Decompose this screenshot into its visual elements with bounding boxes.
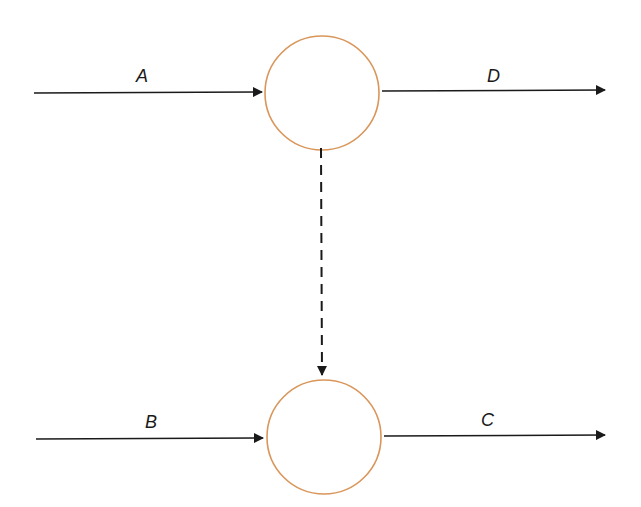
- flow-diagram: A D B C: [0, 0, 641, 507]
- label-d: D: [487, 66, 500, 86]
- label-c: C: [481, 410, 495, 430]
- top-node: [265, 36, 379, 150]
- arrow-a: [34, 92, 262, 93]
- label-b: B: [145, 412, 157, 432]
- bottom-node: [267, 380, 381, 494]
- dashed-link-arrow: [321, 148, 322, 375]
- label-a: A: [135, 66, 148, 86]
- arrow-c: [384, 435, 605, 436]
- arrow-b: [36, 438, 263, 439]
- arrow-d: [382, 90, 605, 91]
